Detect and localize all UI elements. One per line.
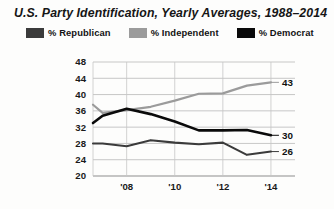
legend-swatch-independent <box>129 28 147 38</box>
legend-swatch-republican <box>26 28 44 38</box>
y-tick-label-28: 28 <box>75 138 86 149</box>
y-tick-label-36: 36 <box>75 105 86 116</box>
legend-label-democrat: % Democrat <box>259 27 314 38</box>
series-end-labels: 264330 <box>271 77 293 157</box>
legend-item-republican: % Republican <box>26 27 111 38</box>
y-tick-label-44: 44 <box>75 73 86 84</box>
legend-item-independent: % Independent <box>129 27 219 38</box>
x-tick-labels: '08'10'12'14 <box>120 181 278 192</box>
legend-swatch-democrat <box>237 28 255 38</box>
line-chart-svg: 4844403632282420 '08'10'12'14 264330 <box>0 45 334 209</box>
x-gridlines <box>93 62 271 176</box>
series-line-independent <box>93 82 271 113</box>
x-tick-label-14: '14 <box>264 181 278 192</box>
y-gridlines <box>93 62 295 176</box>
y-tick-label-20: 20 <box>75 170 86 181</box>
series-lines <box>93 82 271 154</box>
series-line-democrat <box>93 109 271 135</box>
chart-card: U.S. Party Identification, Yearly Averag… <box>0 0 334 209</box>
legend-label-independent: % Independent <box>151 27 219 38</box>
plot-area: 4844403632282420 '08'10'12'14 264330 <box>0 45 334 209</box>
y-tick-labels: 4844403632282420 <box>75 56 86 181</box>
end-label-democrat: 30 <box>282 130 293 141</box>
y-tick-label-24: 24 <box>75 154 86 165</box>
chart-legend: % Republican % Independent % Democrat <box>26 27 314 38</box>
series-line-republican <box>93 140 271 155</box>
legend-item-democrat: % Democrat <box>237 27 314 38</box>
end-label-independent: 43 <box>282 77 293 88</box>
x-tick-label-08: '08 <box>120 181 134 192</box>
y-tick-label-32: 32 <box>75 122 86 133</box>
chart-title: U.S. Party Identification, Yearly Averag… <box>14 6 327 20</box>
y-tick-label-40: 40 <box>75 89 86 100</box>
legend-label-republican: % Republican <box>48 27 111 38</box>
y-tick-label-48: 48 <box>75 56 86 67</box>
end-label-republican: 26 <box>282 146 293 157</box>
x-tick-label-10: '10 <box>168 181 181 192</box>
x-tick-label-12: '12 <box>216 181 229 192</box>
